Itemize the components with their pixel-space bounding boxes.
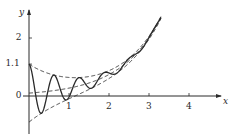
series-upper-envelope: [29, 16, 161, 77]
y-axis-title: y: [19, 8, 24, 17]
axes: [23, 9, 222, 134]
y-tick-label: 1.1: [5, 59, 19, 68]
series-oscillating-curve: [29, 17, 161, 113]
series-lower-envelope: [29, 18, 161, 122]
chart-canvas: [0, 0, 237, 134]
x-axis-title: x: [223, 97, 228, 106]
x-axis-arrow-icon: [216, 94, 222, 98]
y-tick-label: 2: [16, 33, 22, 42]
series-middle-trend: [29, 17, 161, 93]
x-tick-label: 4: [186, 102, 192, 111]
x-tick-label: 1: [66, 102, 72, 111]
series-group: [29, 16, 161, 122]
y-axis-arrow-icon: [27, 9, 31, 15]
y-tick-label: 0: [16, 91, 22, 100]
x-tick-label: 3: [146, 102, 152, 111]
x-tick-label: 2: [106, 102, 112, 111]
